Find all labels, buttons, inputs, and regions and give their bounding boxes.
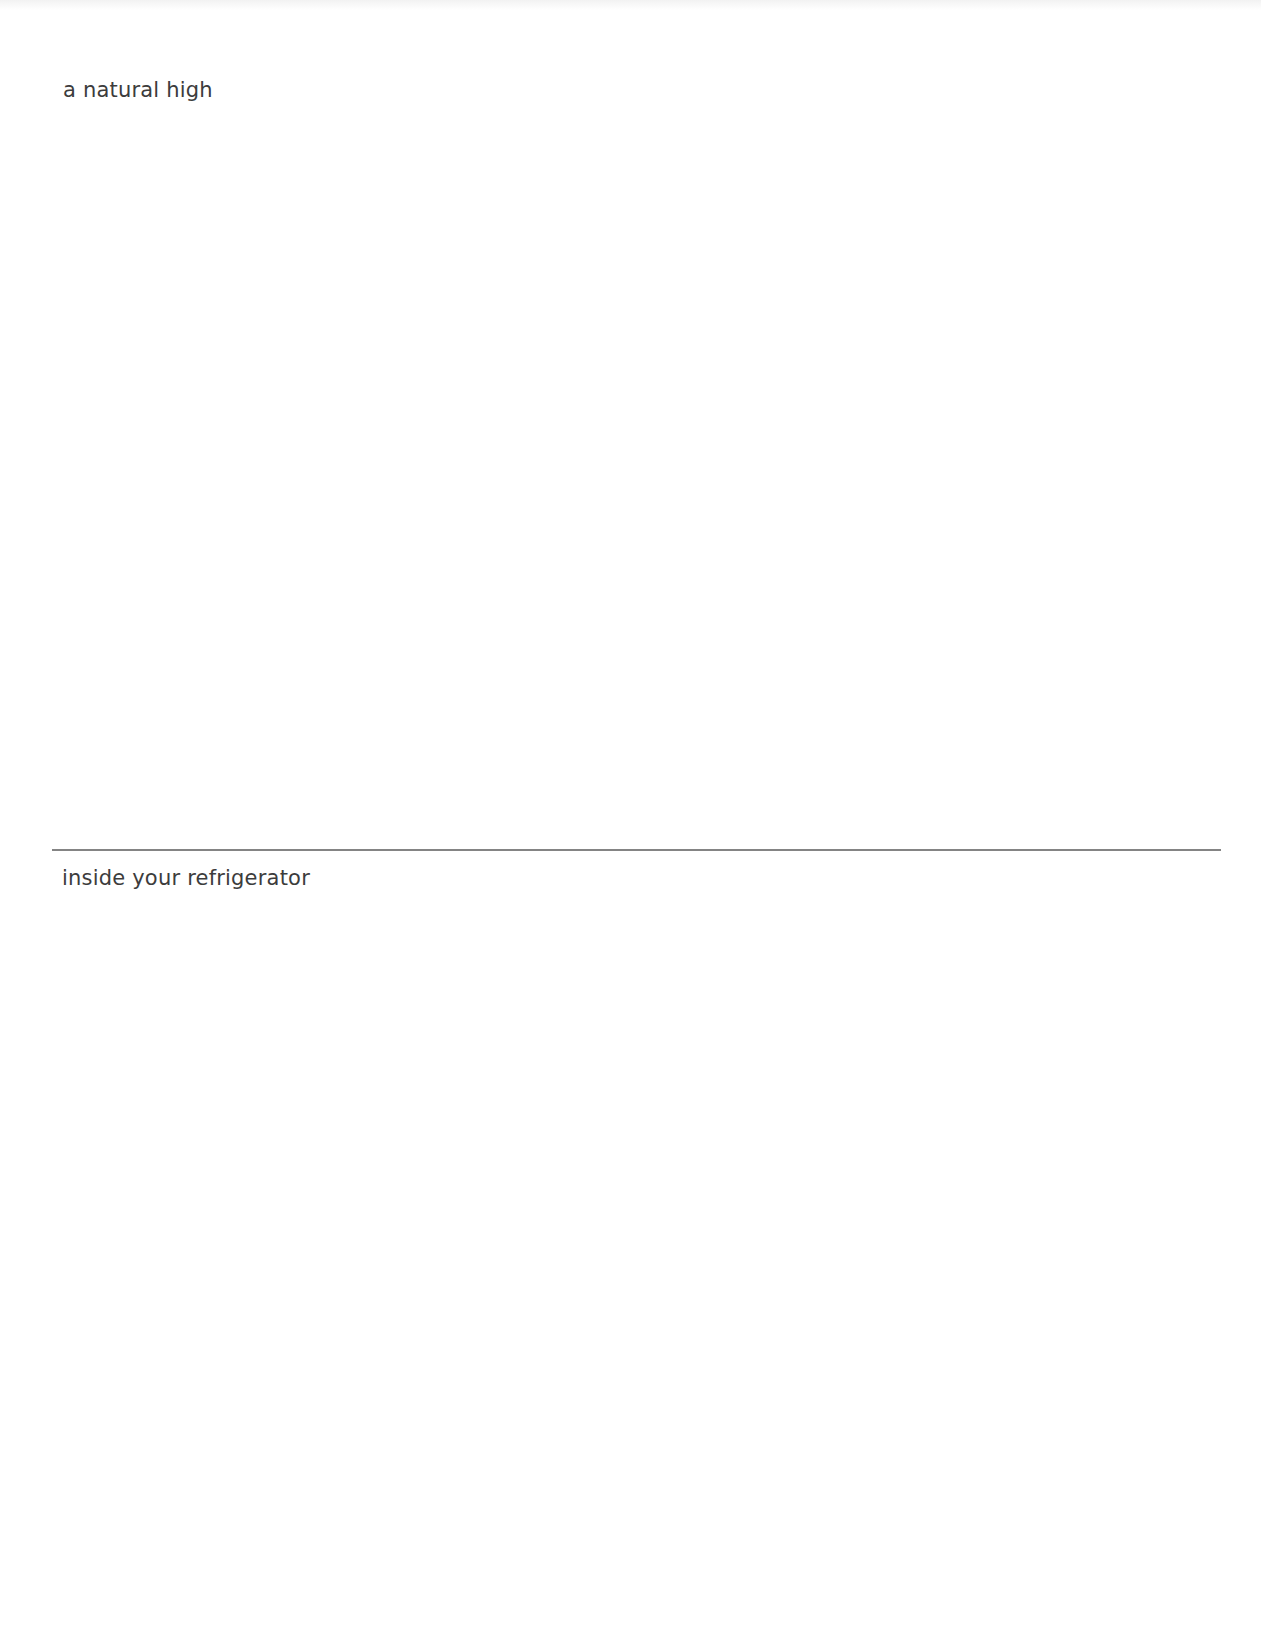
scan-edge-artifact <box>0 0 1261 10</box>
section-divider <box>52 849 1221 851</box>
section-heading-bottom: inside your refrigerator <box>62 866 310 890</box>
section-heading-top: a natural high <box>63 78 213 102</box>
